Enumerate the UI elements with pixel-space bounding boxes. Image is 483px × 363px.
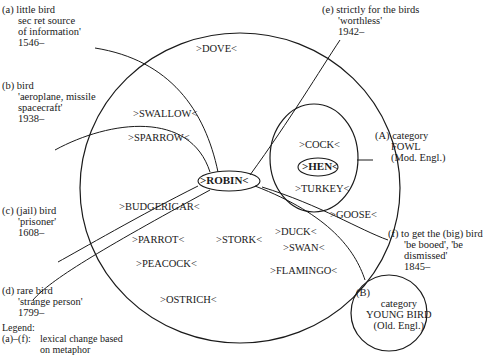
annotation-b-line: spacecraft' (2, 102, 96, 113)
annotation-b: (b) bird 'aeroplane, missile spacecraft'… (2, 80, 96, 124)
bird-hen: >HEN< (302, 160, 338, 172)
legend: Legend: (a)–(f):lexical change based on … (2, 322, 123, 355)
annotation-A-line: FOWL (375, 141, 446, 152)
annotation-d-line: (d) rare bird (2, 285, 83, 296)
annotation-f: (f) to get the (big) bird 'be booed', 'b… (388, 228, 483, 272)
bird-flamingo: >FLAMINGO< (270, 265, 337, 276)
annotation-b-line: 1938– (2, 113, 96, 124)
annotation-a: (a) little bird sec ret source of inform… (2, 4, 81, 48)
annotation-b-line: (b) bird (2, 80, 96, 91)
legend-title: Legend: (2, 322, 123, 333)
annotation-e-line: 1942– (322, 26, 419, 37)
annotation-d-line: 1799– (2, 307, 83, 318)
bird-peacock: >PEACOCK< (136, 258, 197, 269)
annotation-a-line: (a) little bird (2, 4, 81, 15)
annotation-e-line: 'worthless' (322, 15, 419, 26)
bird-dove: >DOVE< (196, 43, 237, 54)
annotation-a-line: 1546– (2, 37, 81, 48)
bird-swan: >SWAN< (283, 242, 325, 253)
bird-swallow: >SWALLOW< (133, 108, 197, 119)
bird-parrot: >PARROT< (132, 234, 184, 245)
bird-budgerigar: >BUDGERIGAR< (119, 201, 200, 212)
bird-goose: >GOOSE< (330, 209, 377, 220)
annotation-e: (e) strictly for the birds 'worthless' 1… (322, 4, 419, 37)
bird-duck: >DUCK< (275, 226, 317, 237)
annotation-B-marker: (B) (356, 287, 370, 298)
annotation-B-line: (Old. Engl.) (366, 320, 432, 331)
annotation-c: (c) (jail) bird 'prisoner' 1608– (2, 205, 56, 238)
annotation-d-line: 'strange person' (2, 296, 83, 307)
legend-row: (a)–(f):lexical change based (2, 333, 123, 344)
annotation-f-line: 'be booed', 'be (388, 239, 483, 250)
annotation-A: (A) category FOWL (Mod. Engl.) (375, 130, 446, 163)
annotation-a-line: sec ret source (2, 15, 81, 26)
bird-sparrow: >SPARROW< (128, 132, 190, 143)
annotation-f-line: (f) to get the (big) bird (388, 228, 483, 239)
annotation-B-line: category (366, 298, 432, 309)
annotation-b-line: 'aeroplane, missile (2, 91, 96, 102)
annotation-B: category YOUNG BIRD (Old. Engl.) (366, 298, 432, 331)
annotation-c-line: 'prisoner' (2, 216, 56, 227)
bird-turkey: >TURKEY< (295, 183, 349, 194)
annotation-f-line: dismissed' (388, 250, 483, 261)
annotation-e-line: (e) strictly for the birds (322, 4, 419, 15)
bird-robin: >ROBIN< (200, 174, 249, 186)
annotation-B-line: YOUNG BIRD (366, 309, 432, 320)
bird-ostrich: >OSTRICH< (160, 294, 217, 305)
legend-row: on metaphor (2, 344, 123, 355)
main-category-circle (80, 33, 400, 343)
annotation-c-line: (c) (jail) bird (2, 205, 56, 216)
annotation-A-line: (A) category (375, 130, 446, 141)
annotation-c-line: 1608– (2, 227, 56, 238)
bird-stork: >STORK< (216, 234, 262, 245)
annotation-A-line: (Mod. Engl.) (375, 152, 446, 163)
annotation-f-line: 1845– (388, 261, 483, 272)
bird-cock: >COCK< (299, 139, 340, 150)
annotation-d: (d) rare bird 'strange person' 1799– (2, 285, 83, 318)
annotation-a-line: of information' (2, 26, 81, 37)
